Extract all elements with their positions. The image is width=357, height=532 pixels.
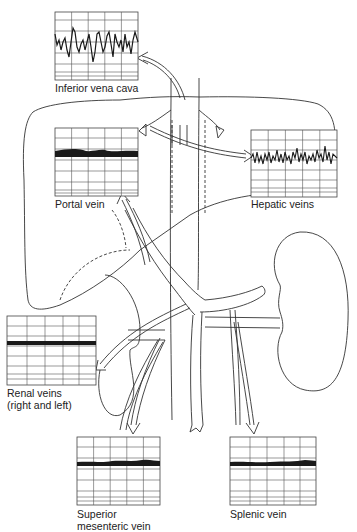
arrow-ivc (142, 56, 185, 100)
anatomy-illustration (0, 0, 357, 532)
left-kidney (274, 232, 348, 391)
panel-renal-grid (7, 316, 96, 385)
label-renal-line2: (right and left) (7, 399, 72, 411)
waveform-renal (7, 341, 96, 345)
arrow-renal (100, 304, 190, 368)
label-hepatic: Hepatic veins (251, 198, 314, 210)
label-renal-line1: Renal veins (7, 387, 62, 399)
panel-smv-grid (77, 437, 160, 505)
panel-portal-grid (55, 128, 138, 196)
label-portal: Portal vein (55, 198, 105, 210)
label-splenic: Splenic vein (230, 508, 287, 520)
label-smv-line2: mesenteric vein (77, 520, 151, 532)
label-ivc: Inferior vena cava (55, 82, 138, 94)
panel-splenic-grid (230, 437, 316, 505)
right-kidney (99, 275, 140, 416)
panel-ivc-grid (55, 12, 138, 80)
portal-vein-vessel (125, 208, 205, 315)
smv-vessel (191, 312, 203, 425)
panel-hepatic-grid (251, 130, 337, 197)
label-smv-line1: Superior (77, 508, 117, 520)
arrow-hepatic (150, 126, 246, 158)
liver-dashed-boundary (60, 250, 130, 300)
